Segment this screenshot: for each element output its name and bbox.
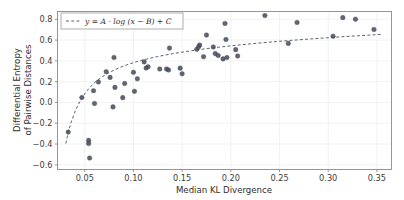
data-point [146, 65, 151, 70]
data-point [131, 70, 136, 75]
data-point [111, 105, 116, 110]
figure-background [0, 0, 404, 200]
x-tick-label: 0.15 [173, 173, 191, 183]
chart-figure: 0.050.100.150.200.250.300.35 −0.6−0.4−0.… [0, 0, 404, 200]
data-point [233, 47, 238, 52]
legend-label: y = A · log (x − B) + C [84, 17, 172, 26]
data-point [341, 15, 346, 20]
data-point [122, 81, 127, 86]
data-point [108, 75, 113, 80]
x-axis-title: Median KL Divergence [176, 185, 272, 195]
y-tick-label: −0.4 [33, 139, 53, 149]
data-point [92, 101, 97, 106]
data-point [180, 71, 185, 76]
data-point [80, 95, 85, 100]
x-tick-label: 0.20 [222, 173, 240, 183]
data-point [331, 34, 336, 39]
y-axis-title-line1: Differential Entropy [12, 48, 22, 132]
data-point [120, 95, 125, 100]
data-point [142, 60, 147, 65]
scatter-plot-svg: 0.050.100.150.200.250.300.35 −0.6−0.4−0.… [0, 0, 404, 200]
data-point [211, 45, 216, 50]
data-point [372, 27, 377, 32]
x-tick-label: 0.25 [270, 173, 288, 183]
data-point [157, 67, 162, 72]
data-point [353, 17, 358, 22]
y-axis-title-line2: of Pairwise Distances [23, 44, 33, 135]
data-point [113, 85, 118, 90]
x-tick-label: 0.35 [368, 173, 386, 183]
x-tick-label: 0.10 [124, 173, 142, 183]
y-tick-label: 0.2 [39, 77, 52, 87]
data-point [224, 37, 229, 42]
data-point [225, 55, 230, 60]
data-point [96, 80, 101, 85]
data-point [166, 68, 171, 73]
data-point [178, 66, 183, 71]
data-point [86, 141, 91, 146]
y-tick-label: 0.8 [39, 14, 52, 24]
data-point [87, 156, 92, 161]
data-point [167, 46, 172, 51]
y-tick-label: 0.6 [39, 35, 52, 45]
y-tick-label: −0.2 [33, 118, 53, 128]
data-point [295, 20, 300, 25]
x-tick-label: 0.05 [76, 173, 94, 183]
data-point [201, 54, 206, 59]
legend: y = A · log (x − B) + C [61, 13, 183, 29]
data-point [223, 21, 228, 26]
data-point [263, 13, 268, 18]
data-point [104, 69, 109, 74]
data-point [112, 55, 117, 60]
data-point [91, 88, 96, 93]
data-point [197, 43, 202, 48]
data-point [135, 76, 140, 81]
x-tick-label: 0.30 [319, 173, 337, 183]
y-tick-label: −0.6 [33, 160, 53, 170]
y-tick-label: 0.0 [39, 97, 52, 107]
data-point [204, 33, 209, 38]
data-point [286, 41, 291, 46]
data-point [235, 54, 240, 59]
data-point [66, 130, 71, 135]
y-tick-label: 0.4 [39, 56, 52, 66]
data-point [216, 53, 221, 58]
data-point [132, 89, 137, 94]
